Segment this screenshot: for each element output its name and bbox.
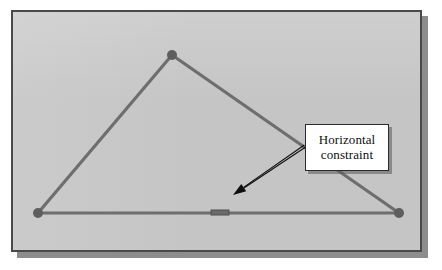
horizontal-constraint-marker [211,210,229,215]
triangle-edge-left-edge [38,55,172,213]
callout-box: Horizontal constraint [305,124,389,171]
vertex-bottom-left [33,208,43,218]
vertex-bottom-right [394,208,404,218]
constraint-marker-group [211,210,229,215]
callout-leader [233,145,306,195]
leader-arrowhead-icon [233,184,246,195]
callout-line-1: Horizontal [319,133,376,148]
leader-stroke-2 [244,145,305,187]
callout-line-2: constraint [321,148,373,163]
vertex-apex [167,50,177,60]
leader-stroke-1 [244,147,306,188]
diagram-screenshot: Horizontal constraint [0,0,442,270]
